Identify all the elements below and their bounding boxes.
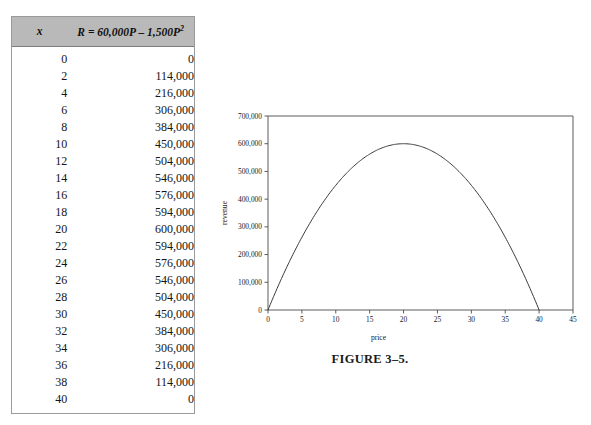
cell-x: 40 bbox=[12, 391, 67, 413]
cell-revenue: 114,000 bbox=[67, 374, 194, 391]
cell-x: 20 bbox=[12, 221, 67, 238]
x-tick-label: 30 bbox=[468, 315, 476, 324]
table-row: 400 bbox=[12, 391, 194, 413]
table-body: 002114,0004216,0006306,0008384,00010450,… bbox=[12, 46, 194, 413]
cell-x: 0 bbox=[12, 46, 67, 68]
x-tick-label: 0 bbox=[266, 315, 270, 324]
table-row: 20600,000 bbox=[12, 221, 194, 238]
y-tick-label: 500,000 bbox=[238, 167, 262, 176]
cell-revenue: 504,000 bbox=[67, 289, 194, 306]
cell-x: 22 bbox=[12, 238, 67, 255]
cell-x: 32 bbox=[12, 323, 67, 340]
column-header-revenue-formula: R = 60,000P – 1,500P2 bbox=[67, 17, 194, 46]
table-row: 00 bbox=[12, 46, 194, 68]
cell-x: 30 bbox=[12, 306, 67, 323]
x-tick-label: 25 bbox=[434, 315, 442, 324]
table-row: 2114,000 bbox=[12, 68, 194, 85]
table-row: 8384,000 bbox=[12, 119, 194, 136]
x-tick-label: 45 bbox=[569, 315, 577, 324]
x-tick-label: 10 bbox=[332, 315, 340, 324]
cell-revenue: 384,000 bbox=[67, 119, 194, 136]
formula-p-symbol-2: P bbox=[173, 26, 180, 38]
cell-revenue: 576,000 bbox=[67, 255, 194, 272]
cell-revenue: 306,000 bbox=[67, 340, 194, 357]
y-tick-label: 100,000 bbox=[238, 278, 262, 287]
x-tick-label: 5 bbox=[300, 315, 304, 324]
x-tick-label: 15 bbox=[366, 315, 374, 324]
table-row: 10450,000 bbox=[12, 136, 194, 153]
cell-x: 34 bbox=[12, 340, 67, 357]
formula-p-symbol-1: P bbox=[129, 26, 136, 38]
y-tick-label: 400,000 bbox=[238, 195, 262, 204]
table-row: 24576,000 bbox=[12, 255, 194, 272]
cell-revenue: 594,000 bbox=[67, 238, 194, 255]
cell-x: 28 bbox=[12, 289, 67, 306]
table-row: 4216,000 bbox=[12, 85, 194, 102]
table-row: 16576,000 bbox=[12, 187, 194, 204]
cell-revenue: 384,000 bbox=[67, 323, 194, 340]
table-header: x R = 60,000P – 1,500P2 bbox=[12, 17, 194, 46]
table-row: 26546,000 bbox=[12, 272, 194, 289]
cell-revenue: 600,000 bbox=[67, 221, 194, 238]
revenue-curve bbox=[268, 144, 539, 310]
cell-revenue: 594,000 bbox=[67, 204, 194, 221]
cell-revenue: 546,000 bbox=[67, 272, 194, 289]
cell-revenue: 450,000 bbox=[67, 306, 194, 323]
y-tick-label: 700,000 bbox=[238, 112, 262, 121]
cell-revenue: 114,000 bbox=[67, 68, 194, 85]
table-row: 28504,000 bbox=[12, 289, 194, 306]
cell-revenue: 450,000 bbox=[67, 136, 194, 153]
cell-x: 18 bbox=[12, 204, 67, 221]
x-tick-label: 20 bbox=[400, 315, 408, 324]
formula-minus-part: – 1,500 bbox=[136, 26, 173, 38]
cell-x: 26 bbox=[12, 272, 67, 289]
column-header-x: x bbox=[12, 17, 67, 46]
cell-x: 2 bbox=[12, 68, 67, 85]
cell-revenue: 504,000 bbox=[67, 153, 194, 170]
table-row: 30450,000 bbox=[12, 306, 194, 323]
cell-x: 14 bbox=[12, 170, 67, 187]
cell-revenue: 306,000 bbox=[67, 102, 194, 119]
x-tick-label: 40 bbox=[535, 315, 543, 324]
table-row: 22594,000 bbox=[12, 238, 194, 255]
formula-eq-part: = 60,000 bbox=[85, 26, 129, 38]
cell-revenue: 576,000 bbox=[67, 187, 194, 204]
cell-revenue: 216,000 bbox=[67, 357, 194, 374]
cell-x: 8 bbox=[12, 119, 67, 136]
revenue-chart-block: 0100,000200,000300,000400,000500,000600,… bbox=[205, 104, 580, 384]
cell-revenue: 0 bbox=[67, 391, 194, 413]
cell-x: 16 bbox=[12, 187, 67, 204]
cell-revenue: 546,000 bbox=[67, 170, 194, 187]
table-row: 12504,000 bbox=[12, 153, 194, 170]
cell-revenue: 0 bbox=[67, 46, 194, 68]
table-row: 38114,000 bbox=[12, 374, 194, 391]
table-row: 34306,000 bbox=[12, 340, 194, 357]
cell-x: 6 bbox=[12, 102, 67, 119]
value-table: x R = 60,000P – 1,500P2 002114,0004216,0… bbox=[12, 17, 194, 413]
revenue-value-table: x R = 60,000P – 1,500P2 002114,0004216,0… bbox=[11, 16, 195, 414]
y-tick-label: 300,000 bbox=[238, 222, 262, 231]
table-row: 14546,000 bbox=[12, 170, 194, 187]
y-tick-label: 0 bbox=[258, 306, 262, 315]
cell-x: 10 bbox=[12, 136, 67, 153]
table-row: 18594,000 bbox=[12, 204, 194, 221]
formula-exponent: 2 bbox=[180, 24, 184, 33]
cell-x: 38 bbox=[12, 374, 67, 391]
y-tick-label: 600,000 bbox=[238, 139, 262, 148]
y-axis-title: revenue bbox=[220, 200, 229, 225]
figure-caption: FIGURE 3–5. bbox=[205, 352, 535, 367]
table-row: 32384,000 bbox=[12, 323, 194, 340]
revenue-parabola-chart: 0100,000200,000300,000400,000500,000600,… bbox=[205, 104, 580, 349]
y-tick-label: 200,000 bbox=[238, 250, 262, 259]
x-axis-title: price bbox=[371, 333, 387, 342]
cell-revenue: 216,000 bbox=[67, 85, 194, 102]
cell-x: 12 bbox=[12, 153, 67, 170]
cell-x: 24 bbox=[12, 255, 67, 272]
cell-x: 4 bbox=[12, 85, 67, 102]
x-tick-label: 35 bbox=[502, 315, 510, 324]
table-header-row: x R = 60,000P – 1,500P2 bbox=[12, 17, 194, 46]
table-row: 36216,000 bbox=[12, 357, 194, 374]
formula-r-symbol: R bbox=[77, 26, 85, 38]
cell-x: 36 bbox=[12, 357, 67, 374]
table-row: 6306,000 bbox=[12, 102, 194, 119]
